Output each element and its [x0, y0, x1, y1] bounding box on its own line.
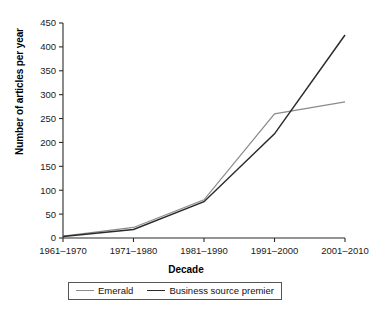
x-tick-label: 1991–2000	[251, 245, 299, 256]
y-tick-label: 100	[40, 185, 56, 196]
chart-legend: Emerald Business source premier	[68, 282, 282, 300]
legend-label-business-source-premier: Business source premier	[169, 285, 274, 296]
figure-caption	[14, 312, 362, 320]
legend-item-business-source-premier: Business source premier	[147, 285, 274, 296]
y-tick-label: 150	[40, 161, 56, 172]
series-line-emerald	[63, 102, 345, 236]
x-tick-label: 1971–1980	[110, 245, 158, 256]
y-tick-label: 450	[40, 17, 56, 28]
x-tick-label: 1981–1990	[180, 245, 228, 256]
series-line-business-source-premier	[63, 35, 345, 237]
y-tick-label: 0	[51, 232, 56, 243]
y-axis-title: Number of articles per year	[14, 0, 25, 187]
x-tick-label: 1961–1970	[39, 245, 87, 256]
y-tick-label: 50	[45, 209, 56, 220]
y-tick-label: 250	[40, 113, 56, 124]
y-tick-label: 400	[40, 41, 56, 52]
legend-label-emerald: Emerald	[98, 285, 133, 296]
legend-swatch-emerald	[76, 290, 94, 291]
y-tick-label: 300	[40, 89, 56, 100]
x-tick-label: 2001–2010	[321, 245, 369, 256]
legend-swatch-business-source-premier	[147, 290, 165, 291]
y-tick-label: 350	[40, 65, 56, 76]
legend-item-emerald: Emerald	[76, 285, 133, 296]
y-tick-label: 200	[40, 137, 56, 148]
x-axis-title: Decade	[0, 264, 372, 275]
figure-container: 0501001502002503003504004501961–19701971…	[0, 0, 372, 320]
